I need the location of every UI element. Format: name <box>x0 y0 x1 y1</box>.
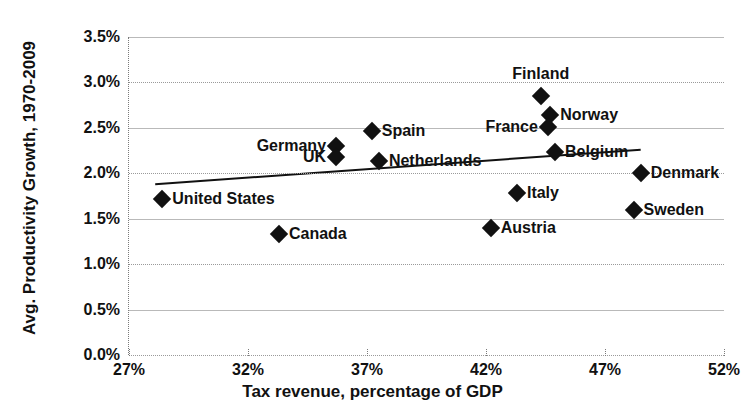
x-tick-mark <box>129 349 130 356</box>
data-point-netherlands[interactable] <box>370 152 388 170</box>
data-point-label-united-states: United States <box>172 190 274 208</box>
x-tick-mark <box>367 349 368 356</box>
gridline-y <box>129 264 724 265</box>
gridline-y <box>129 37 724 38</box>
data-point-italy[interactable] <box>508 184 526 202</box>
data-point-label-norway: Norway <box>560 106 618 124</box>
data-point-belgium[interactable] <box>546 143 564 161</box>
x-tick-label: 27% <box>113 361 145 379</box>
data-point-label-france: France <box>485 118 537 136</box>
y-tick-label: 2.0% <box>84 164 120 182</box>
data-point-uk[interactable] <box>327 148 345 166</box>
data-point-label-austria: Austria <box>501 219 556 237</box>
y-axis-line <box>128 37 129 355</box>
data-point-france[interactable] <box>539 118 557 136</box>
data-point-label-uk: UK <box>303 148 326 166</box>
data-point-label-denmark: Denmark <box>651 164 719 182</box>
x-tick-mark <box>486 349 487 356</box>
plot-area: 0.0%0.5%1.0%1.5%2.0%2.5%3.0%3.5%27%32%37… <box>129 37 724 355</box>
x-tick-label: 42% <box>470 361 502 379</box>
data-point-austria[interactable] <box>482 219 500 237</box>
data-point-label-netherlands: Netherlands <box>389 152 481 170</box>
x-tick-label: 37% <box>351 361 383 379</box>
data-point-spain[interactable] <box>363 122 381 140</box>
gridline-y <box>129 310 724 311</box>
data-point-label-finland: Finland <box>512 65 569 83</box>
data-point-united-states[interactable] <box>153 190 171 208</box>
data-point-label-sweden: Sweden <box>644 201 704 219</box>
x-tick-mark <box>724 349 725 356</box>
gridline-y <box>129 219 724 220</box>
data-point-canada[interactable] <box>270 225 288 243</box>
x-tick-label: 52% <box>708 361 740 379</box>
data-point-denmark[interactable] <box>631 164 649 182</box>
y-tick-label: 3.0% <box>84 73 120 91</box>
chart-title-strip: TAX REVENUE AS A % OF GDP AND PRODUCTIVI… <box>0 0 745 9</box>
y-tick-label: 2.5% <box>84 119 120 137</box>
y-tick-label: 1.5% <box>84 210 120 228</box>
data-point-sweden[interactable] <box>624 200 642 218</box>
x-tick-label: 47% <box>589 361 621 379</box>
x-axis-title: Tax revenue, percentage of GDP <box>0 382 745 402</box>
y-tick-label: 3.5% <box>84 28 120 46</box>
x-tick-mark <box>605 349 606 356</box>
gridline-y <box>129 128 724 129</box>
chart-title: TAX REVENUE AS A % OF GDP AND PRODUCTIVI… <box>110 0 745 5</box>
scatter-chart: TAX REVENUE AS A % OF GDP AND PRODUCTIVI… <box>0 0 745 413</box>
data-point-finland[interactable] <box>532 87 550 105</box>
x-tick-mark <box>248 349 249 356</box>
data-point-label-belgium: Belgium <box>565 143 628 161</box>
data-point-label-spain: Spain <box>382 122 426 140</box>
gridline-y <box>129 82 724 83</box>
x-tick-label: 32% <box>232 361 264 379</box>
y-tick-label: 1.0% <box>84 255 120 273</box>
gridline-y <box>129 355 724 356</box>
data-point-label-canada: Canada <box>289 225 347 243</box>
y-tick-label: 0.5% <box>84 301 120 319</box>
y-axis-title: Avg. Productivity Growth, 1970-2009 <box>20 18 40 358</box>
data-point-label-italy: Italy <box>527 184 559 202</box>
